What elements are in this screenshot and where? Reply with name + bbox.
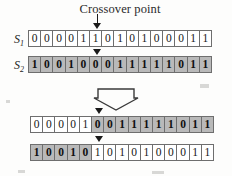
crossover-marker-icon-offspring2: [95, 136, 103, 142]
bit-cell: 0: [80, 145, 92, 160]
bit-cell: 1: [141, 145, 153, 160]
bit-cell: 0: [92, 117, 104, 132]
bit-cell: 0: [68, 117, 80, 132]
bit-cell: 0: [53, 57, 65, 72]
bit-cell: 1: [139, 57, 151, 72]
bit-cell: 1: [151, 57, 163, 72]
bit-cell: 0: [177, 117, 189, 132]
row-label-parent2-subscript: 2: [20, 65, 24, 74]
bit-cell: 1: [80, 117, 92, 132]
crossover-marker-icon-offspring1: [95, 108, 103, 114]
bit-cell: 0: [53, 31, 65, 46]
bit-cell: 1: [114, 31, 126, 46]
bit-cell: 0: [102, 57, 114, 72]
bit-cell: 1: [29, 57, 41, 72]
bit-cell: 1: [129, 117, 141, 132]
bit-cell: 0: [41, 57, 53, 72]
bit-cell: 1: [116, 145, 128, 160]
bit-cell: 1: [163, 57, 175, 72]
bit-cell: 1: [139, 31, 151, 46]
bit-cell: 0: [55, 117, 67, 132]
scan-artifact: [18, 170, 25, 173]
offspring2-bitstring: 1 0 0 1 0 1 0 1 0 1 0 0 0 1 1: [30, 144, 214, 161]
bit-cell: 1: [190, 117, 202, 132]
bit-cell: 0: [102, 31, 114, 46]
bit-cell: 0: [55, 145, 67, 160]
scan-artifact: [152, 171, 164, 174]
scan-artifact: [200, 84, 209, 88]
bit-cell: 0: [104, 145, 116, 160]
bit-cell: 1: [114, 57, 126, 72]
row-label-parent1: S1: [2, 32, 24, 48]
scan-artifact: [6, 100, 10, 103]
bit-cell: 1: [116, 117, 128, 132]
diagram-title: Crossover point: [0, 2, 232, 17]
offspring1-bitstring: 0 0 0 0 1 0 0 1 1 1 1 1 0 1 1: [30, 116, 214, 133]
bit-cell: 1: [90, 31, 102, 46]
bit-cell: 1: [66, 57, 78, 72]
parent2-bitstring: 1 0 0 1 0 0 0 1 1 1 1 1 0 1 1: [28, 56, 212, 73]
bit-cell: 0: [153, 145, 165, 160]
row-label-parent2: S2: [2, 58, 24, 74]
bit-cell: 1: [127, 57, 139, 72]
crossover-marker-icon-parent1: [93, 23, 101, 29]
bit-cell: 0: [177, 145, 189, 160]
bit-cell: 0: [104, 117, 116, 132]
bit-cell: 1: [68, 145, 80, 160]
bit-cell: 0: [127, 31, 139, 46]
bit-cell: 0: [151, 31, 163, 46]
bit-cell: 0: [66, 31, 78, 46]
bit-cell: 0: [78, 57, 90, 72]
parent1-bitstring: 0 0 0 0 1 1 0 1 0 1 0 0 0 1 1: [28, 30, 212, 47]
bit-cell: 0: [41, 31, 53, 46]
crossover-marker-icon-parent2: [93, 49, 101, 55]
bit-cell: 1: [190, 145, 202, 160]
crossover-diagram: Crossover point S1 0 0 0 0 1 1 0 1 0 1 0…: [0, 0, 232, 176]
bit-cell: 1: [200, 57, 211, 72]
bit-cell: 0: [129, 145, 141, 160]
bit-cell: 0: [43, 117, 55, 132]
bit-cell: 0: [90, 57, 102, 72]
bit-cell: 0: [175, 57, 187, 72]
bit-cell: 1: [202, 117, 213, 132]
bit-cell: 1: [31, 145, 43, 160]
row-label-parent1-subscript: 1: [20, 39, 24, 48]
bit-cell: 1: [200, 31, 211, 46]
bit-cell: 0: [29, 31, 41, 46]
bit-cell: 1: [202, 145, 213, 160]
bit-cell: 0: [43, 145, 55, 160]
bit-cell: 1: [188, 57, 200, 72]
bit-cell: 1: [141, 117, 153, 132]
bit-cell: 0: [163, 31, 175, 46]
bit-cell: 1: [92, 145, 104, 160]
bit-cell: 1: [78, 31, 90, 46]
bit-cell: 0: [31, 117, 43, 132]
bit-cell: 1: [188, 31, 200, 46]
bit-cell: 0: [175, 31, 187, 46]
bit-cell: 1: [165, 117, 177, 132]
bit-cell: 0: [165, 145, 177, 160]
bit-cell: 1: [153, 117, 165, 132]
